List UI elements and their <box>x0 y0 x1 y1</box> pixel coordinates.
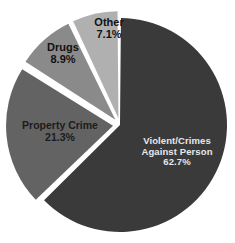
pie-chart: Violent/Crimes Against Person 62.7% Prop… <box>0 0 235 243</box>
pie-chart-svg <box>0 0 235 243</box>
pie-slices-group <box>6 11 227 232</box>
